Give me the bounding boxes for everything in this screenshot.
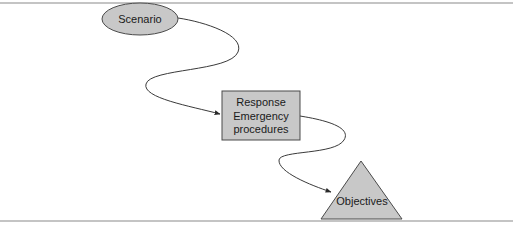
response-node: Response Emergency procedures: [222, 91, 300, 140]
objectives-node: Objectives: [321, 161, 402, 219]
response-label: Response: [236, 96, 286, 108]
flow-diagram: Scenario Response Emergency procedures O…: [0, 0, 513, 228]
scenario-label: Scenario: [118, 13, 161, 25]
response-sublabel-2: procedures: [233, 123, 289, 135]
objectives-label: Objectives: [336, 195, 388, 207]
scenario-node: Scenario: [102, 3, 178, 35]
response-sublabel-1: Emergency: [233, 110, 289, 122]
